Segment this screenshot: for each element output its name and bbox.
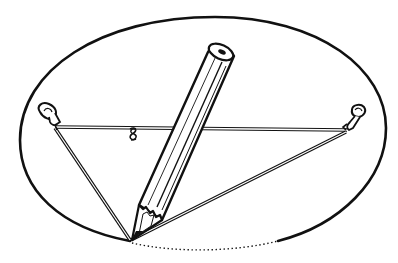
right-pushpin-icon [343, 105, 365, 130]
pencil-icon [131, 40, 236, 241]
string-knot-icon [130, 128, 136, 140]
string [55, 127, 347, 240]
illustration-svg [0, 0, 398, 263]
ellipse-dotted-arc [132, 241, 278, 250]
ellipse-construction-illustration [0, 0, 398, 263]
